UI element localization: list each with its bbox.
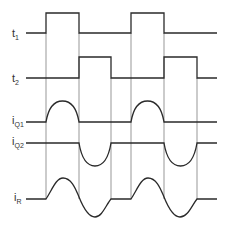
waveform-ir	[26, 178, 217, 217]
signal-t1: t1	[12, 13, 217, 41]
signal-label-t1: t1	[12, 27, 19, 41]
signal-label-ir: iR	[14, 191, 22, 205]
signal-label-iq1: iQ1	[12, 114, 24, 129]
waveform-t1	[26, 13, 217, 33]
signal-ir: iR	[14, 178, 217, 217]
timing-diagram: t1 t2 iQ1 iQ2 iR	[0, 0, 228, 229]
signal-iq2: iQ2	[12, 135, 217, 166]
waveform-iq2	[26, 143, 217, 166]
signal-label-t2: t2	[12, 72, 19, 86]
guide-lines	[46, 33, 197, 199]
waveform-t2	[26, 57, 217, 78]
waveform-iq1	[26, 101, 217, 122]
signal-iq1: iQ1	[12, 101, 217, 129]
signal-t2: t2	[12, 57, 217, 86]
signal-label-iq2: iQ2	[12, 135, 24, 150]
